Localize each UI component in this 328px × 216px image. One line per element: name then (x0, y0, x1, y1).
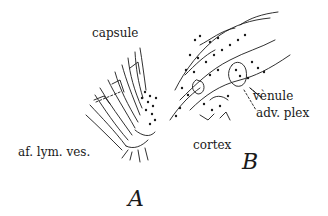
cell-dots (141, 34, 265, 125)
adventitial-plexus-label: adv. plex (256, 107, 309, 119)
lymph-node-illustration: capsule af. lym. ves. A vènule adv. plex… (0, 0, 328, 216)
panel-b-letter: B (242, 151, 258, 173)
cortex-label: cortex (193, 139, 231, 151)
panel-a-vessels (86, 48, 155, 162)
capsule-label: capsule (92, 27, 138, 39)
panel-b-vessels (170, 12, 290, 120)
afferent-lymph-vessel-label: af. lym. ves. (18, 146, 90, 158)
venule-label: vènule (253, 90, 293, 102)
panel-a-letter: A (128, 188, 144, 210)
